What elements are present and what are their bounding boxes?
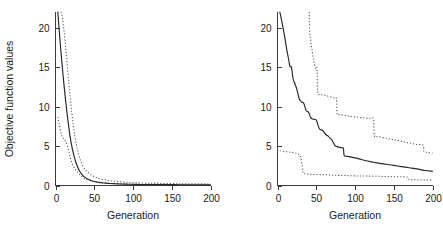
right-curve-lower-bound <box>280 151 433 180</box>
left-y-ticklabel: 0 <box>44 181 50 192</box>
left-x-axis-title: Generation <box>107 209 159 221</box>
right-x-ticklabel: 50 <box>311 193 323 204</box>
left-panel: 05101520 050100150200 Generation Objecti… <box>3 12 220 221</box>
figure-container: 05101520 050100150200 Generation Objecti… <box>0 0 443 229</box>
right-x-ticklabel: 150 <box>386 193 403 204</box>
left-curve-lower-bound <box>58 117 211 185</box>
left-panel-y-ticklabels: 05101520 <box>38 23 50 192</box>
right-panel-y-ticklabels: 05101520 <box>260 23 272 192</box>
right-y-ticklabel: 0 <box>266 181 272 192</box>
left-panel-y-ticks <box>56 29 60 187</box>
right-panel-x-ticks <box>279 186 434 190</box>
left-x-ticklabel: 200 <box>203 193 220 204</box>
right-y-ticklabel: 20 <box>260 23 272 34</box>
right-x-axis-title: Generation <box>329 209 381 221</box>
left-x-ticklabel: 150 <box>164 193 181 204</box>
right-curve-mean <box>280 12 433 171</box>
left-panel-x-ticklabels: 050100150200 <box>54 193 221 204</box>
right-x-ticklabel: 100 <box>347 193 364 204</box>
y-axis-title: Objective function values <box>3 41 15 158</box>
left-y-ticklabel: 5 <box>44 141 50 152</box>
two-panel-convergence-plot: 05101520 050100150200 Generation Objecti… <box>0 0 443 229</box>
left-curve-mean <box>58 12 211 185</box>
right-panel: 05101520 050100150200 Generation <box>260 12 442 221</box>
right-panel-y-ticks <box>278 29 282 187</box>
left-panel-x-ticks <box>57 186 212 190</box>
left-y-ticklabel: 15 <box>38 62 50 73</box>
left-y-ticklabel: 20 <box>38 23 50 34</box>
right-y-ticklabel: 5 <box>266 141 272 152</box>
right-panel-x-ticklabels: 050100150200 <box>276 193 443 204</box>
left-curve-upper-bound <box>61 12 211 184</box>
left-x-ticklabel: 100 <box>125 193 142 204</box>
right-y-ticklabel: 15 <box>260 62 272 73</box>
right-x-ticklabel: 0 <box>276 193 282 204</box>
left-x-ticklabel: 50 <box>89 193 101 204</box>
right-curve-upper-bound <box>309 12 432 153</box>
right-y-ticklabel: 10 <box>260 102 272 113</box>
left-y-ticklabel: 10 <box>38 102 50 113</box>
left-x-ticklabel: 0 <box>54 193 60 204</box>
right-panel-curves <box>280 12 433 180</box>
left-panel-axes <box>56 12 211 186</box>
right-x-ticklabel: 200 <box>425 193 442 204</box>
left-panel-curves <box>58 12 211 185</box>
